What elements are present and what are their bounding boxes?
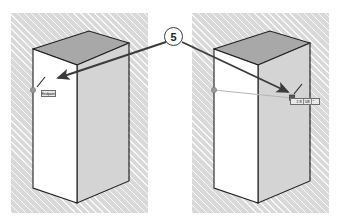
box-front-face: [214, 49, 258, 203]
tooltip-right-segment-2: 5/8: [303, 99, 311, 104]
tooltip-right-segment-3: ": [311, 99, 315, 104]
viewport-panel-right[interactable]: [192, 13, 329, 213]
tooltip-right-segment-1: 1' 8: [295, 99, 303, 104]
box-front-face: [33, 49, 77, 203]
box-side-face: [258, 43, 310, 203]
box-side-face: [77, 43, 129, 203]
figure-root: Endpoint 1' 8 5/8 ": [0, 0, 343, 224]
tooltip-left-text: Endpoint: [41, 91, 55, 96]
viewport-panel-left[interactable]: [11, 13, 148, 213]
callout-number: 5: [170, 31, 176, 43]
left-panel-drawing: [11, 13, 148, 213]
measurement-tooltip-left: Endpoint: [41, 90, 56, 97]
callout-badge-5[interactable]: 5: [164, 27, 183, 46]
start-endpoint-marker-icon: [211, 87, 216, 92]
endpoint-marker-icon: [30, 87, 35, 92]
right-panel-drawing: [192, 13, 329, 213]
measurement-tooltip-right: 1' 8 5/8 ": [290, 98, 320, 105]
